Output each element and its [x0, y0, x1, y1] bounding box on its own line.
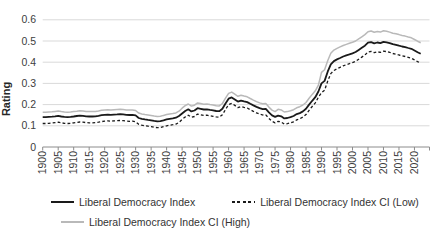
legend-row-1: Liberal Democracy Index Liberal Democrac… [0, 192, 435, 212]
solid-line-swatch-icon [51, 201, 74, 203]
legend-item-ci-low: Liberal Democracy Index CI (Low) [232, 196, 419, 208]
legend: Liberal Democracy Index Liberal Democrac… [0, 192, 435, 232]
series-line-0 [43, 42, 421, 122]
gray-line-swatch-icon [61, 221, 84, 223]
legend-item-ldi: Liberal Democracy Index [51, 196, 195, 208]
chart-container: Rating 00.10.20.30.40.50.619001905191019… [0, 0, 435, 236]
legend-row-2: Liberal Democracy Index CI (High) [0, 212, 435, 232]
dashed-line-swatch-icon [232, 201, 255, 203]
legend-label-ldi: Liberal Democracy Index [79, 196, 195, 208]
legend-label-ci-high: Liberal Democracy Index CI (High) [89, 216, 250, 228]
legend-label-ci-low: Liberal Democracy Index CI (Low) [260, 196, 419, 208]
legend-item-ci-high: Liberal Democracy Index CI (High) [61, 216, 250, 228]
